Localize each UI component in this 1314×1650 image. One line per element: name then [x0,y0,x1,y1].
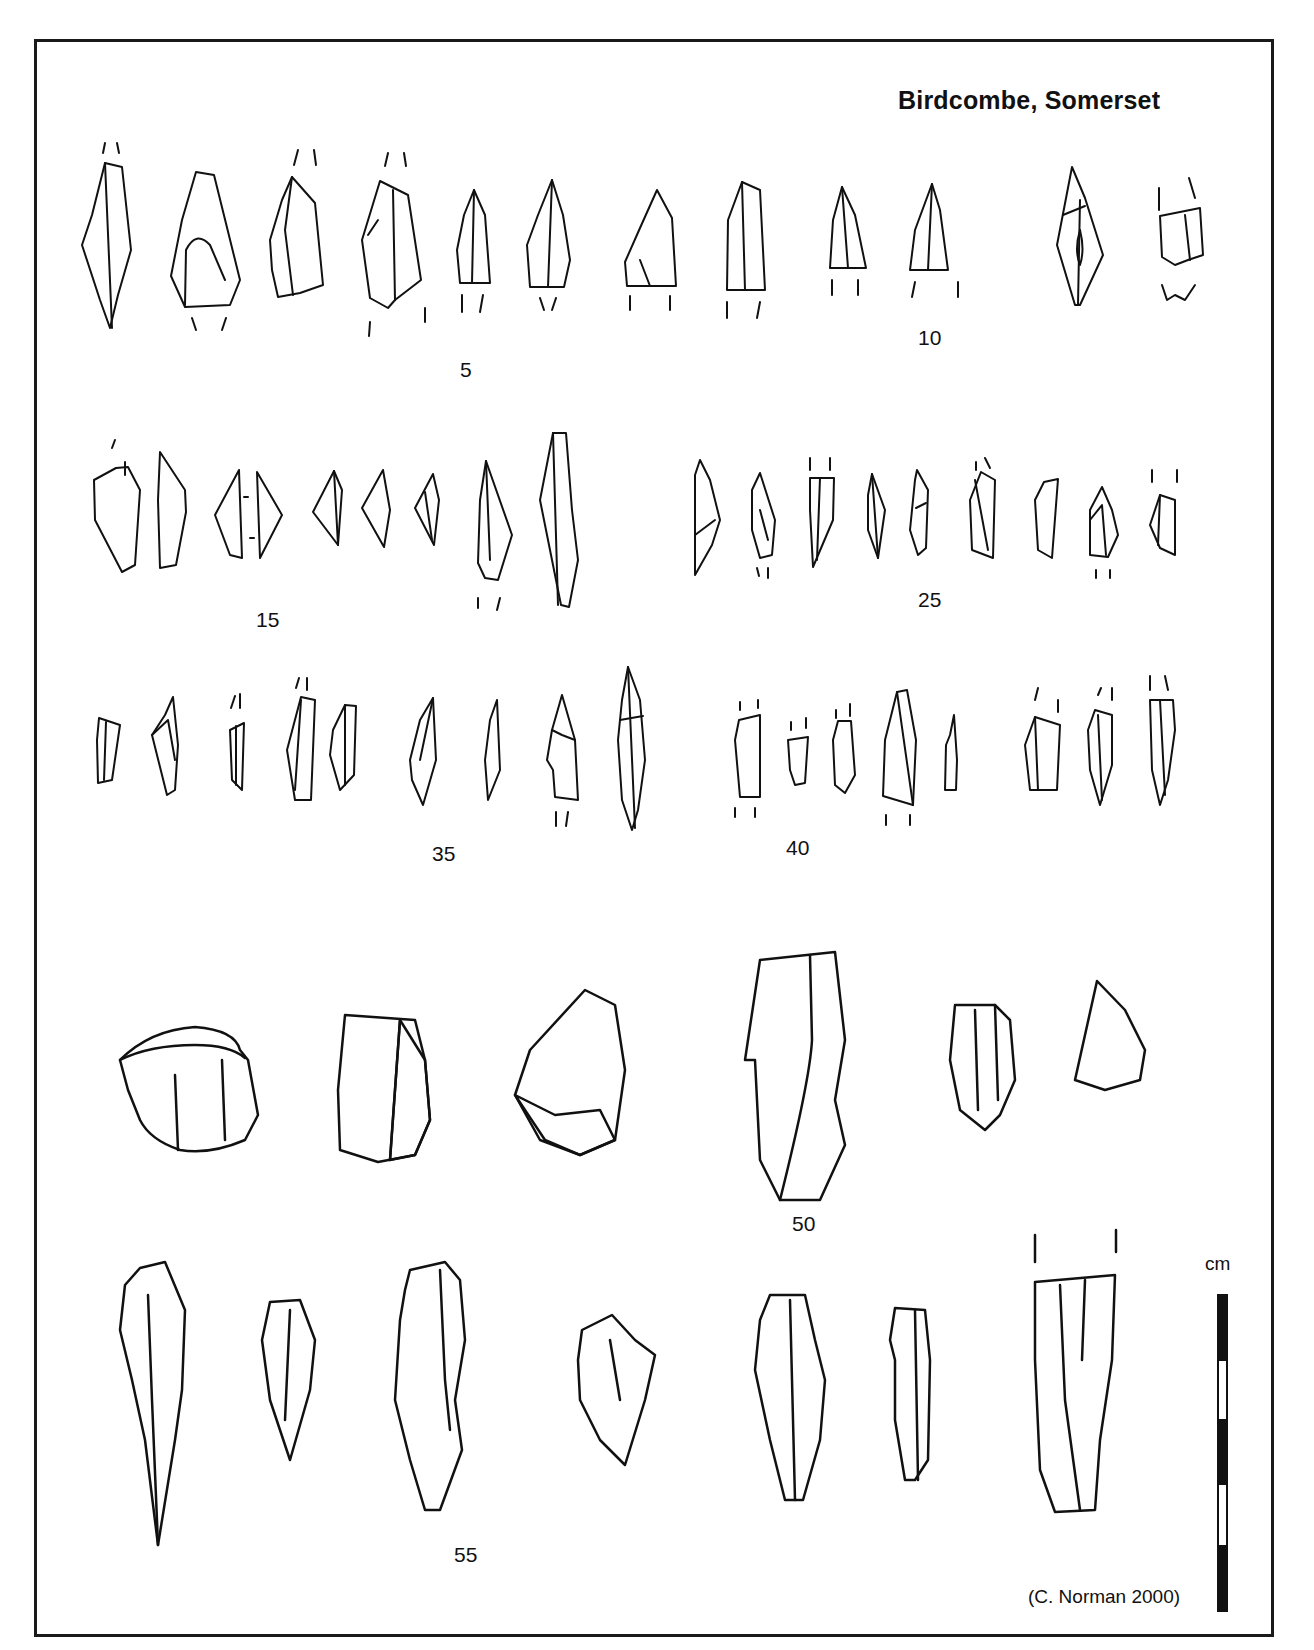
artifact-45 [1088,688,1112,805]
artifact-28 [1090,487,1118,578]
artifact-17 [362,470,390,547]
artifact-flake-55 [395,1262,465,1510]
artifact-33 [287,678,315,800]
artifact-scraper-6 [1075,981,1145,1090]
row-4-cores-scrapers [120,952,1145,1200]
artifact-blade-6 [890,1308,930,1480]
artifact-18 [415,474,439,545]
artifact-drawings [0,0,1314,1650]
artifact-1 [82,143,131,328]
artifact-37 [547,695,578,826]
artifact-core-1 [120,1027,258,1151]
artifact-30 [97,718,120,783]
artifact-7 [625,190,676,310]
artifact-point-2 [262,1300,315,1460]
artifact-22 [752,473,775,578]
artifact-38 [618,667,645,830]
artifact-32 [230,694,244,790]
artifact-43 [945,715,957,790]
artifact-23 [810,458,834,567]
artifact-27 [1035,479,1058,558]
artifact-14 [158,452,186,568]
artifact-41 [833,704,855,793]
artifact-24 [868,474,885,558]
artifact-12 [1159,178,1203,300]
artifact-16 [313,471,342,545]
row-2-microliths [94,433,1177,610]
artifact-2 [171,172,240,330]
artifact-blade-50 [745,952,845,1200]
artifact-25 [910,470,928,555]
artifact-flake-4 [578,1315,655,1465]
artifact-3 [270,150,323,297]
artifact-29 [1150,470,1177,555]
artifact-34 [330,705,356,790]
artifact-42 [883,690,916,825]
row-5-blades-points [120,1230,1116,1545]
artifact-flake-3 [515,990,625,1155]
artifact-core-5 [950,1005,1015,1130]
artifact-10 [910,184,958,297]
artifact-11 [1057,167,1103,305]
row-3-microliths [97,667,1175,830]
artifact-4 [362,153,425,336]
artifact-blade-5 [755,1295,825,1500]
artifact-35 [410,698,436,805]
artifact-44 [1025,688,1060,790]
artifact-point-1 [120,1262,185,1545]
artifact-31 [152,697,178,795]
artifact-5 [457,190,490,312]
artifact-20 [540,433,578,607]
artifact-13 [94,440,140,572]
scale-bar [1217,1294,1228,1612]
artifact-6 [527,180,570,310]
row-1-microliths [82,143,1203,336]
artifact-36 [485,700,500,800]
artifact-39 [735,700,760,817]
artifact-15 [215,470,282,558]
artifact-21 [695,460,720,575]
artifact-26 [970,458,995,558]
artifact-9 [830,187,866,295]
artifact-8 [727,182,765,318]
artifact-19 [478,461,512,610]
artifact-46 [1150,676,1175,805]
artifact-core-2 [338,1015,430,1162]
artifact-blade-7 [1035,1230,1116,1512]
artifact-40 [788,718,808,785]
